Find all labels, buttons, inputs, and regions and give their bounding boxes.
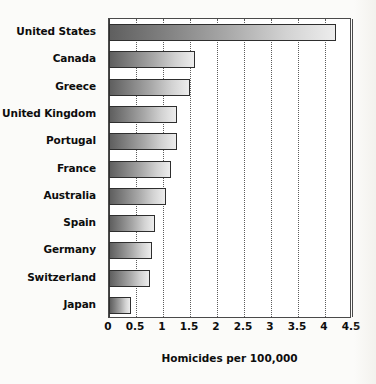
value-axis: 00.511.522.533.544.5 (108, 320, 351, 338)
bar (109, 270, 150, 287)
x-tick-label: 1 (158, 320, 165, 332)
x-tick-label: 2 (212, 320, 219, 332)
bar (109, 79, 190, 96)
category-label: Canada (0, 53, 96, 64)
plot-area (108, 18, 351, 318)
category-label: United States (0, 26, 96, 37)
category-label: Germany (0, 244, 96, 255)
x-tick-label: 1.5 (180, 320, 199, 332)
bars-layer (109, 19, 350, 317)
x-tick-label: 0 (104, 320, 111, 332)
category-axis: United StatesCanadaGreeceUnited KingdomP… (0, 18, 102, 318)
gridline-4-5 (352, 19, 353, 317)
category-label: Greece (0, 81, 96, 92)
category-label: Japan (0, 299, 96, 310)
bar (109, 242, 152, 259)
x-tick-label: 3.5 (288, 320, 307, 332)
category-label: Spain (0, 217, 96, 228)
bar (109, 215, 155, 232)
x-tick-label: 3 (266, 320, 273, 332)
category-label: Australia (0, 190, 96, 201)
bar (109, 24, 336, 41)
bar (109, 161, 171, 178)
category-label: Portugal (0, 135, 96, 146)
bar (109, 297, 131, 314)
bar (109, 106, 177, 123)
category-label: Switzerland (0, 272, 96, 283)
x-tick-label: 4.5 (342, 320, 361, 332)
bar (109, 188, 166, 205)
x-tick-label: 4 (320, 320, 327, 332)
x-axis-title: Homicides per 100,000 (108, 352, 351, 364)
category-label: United Kingdom (0, 108, 96, 119)
bar (109, 51, 195, 68)
bar (109, 133, 177, 150)
x-tick-label: 2.5 (234, 320, 253, 332)
category-label: France (0, 163, 96, 174)
x-tick-label: 0.5 (126, 320, 145, 332)
horizontal-bar-chart: United StatesCanadaGreeceUnited KingdomP… (0, 0, 376, 384)
